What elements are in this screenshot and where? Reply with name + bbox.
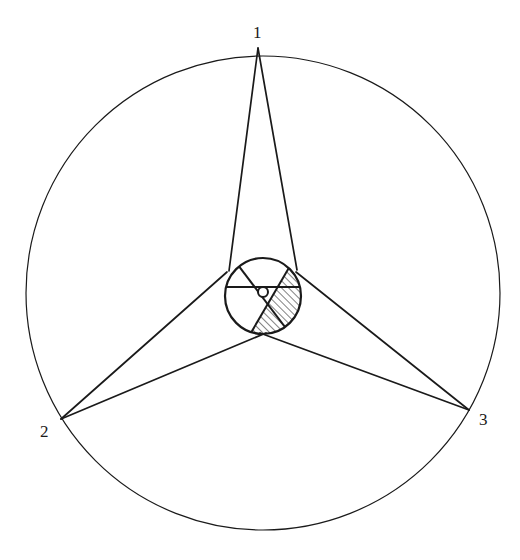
inner-chords bbox=[189, 234, 337, 364]
tangent-line-from-vertex-3 bbox=[296, 272, 469, 410]
center-circle bbox=[258, 287, 268, 297]
tangent-lines bbox=[61, 48, 469, 419]
tangent-line-from-vertex-2 bbox=[61, 272, 227, 419]
tangent-line-from-vertex-2 bbox=[61, 333, 266, 419]
vertex-label-2: 2 bbox=[40, 423, 49, 440]
diagram-canvas bbox=[0, 0, 520, 560]
tangent-line-from-vertex-1 bbox=[229, 48, 258, 271]
tangent-line-from-vertex-1 bbox=[258, 48, 297, 270]
vertex-label-3: 3 bbox=[479, 411, 488, 428]
tangent-line-from-vertex-3 bbox=[260, 333, 469, 410]
vertex-label-1: 1 bbox=[253, 24, 262, 41]
